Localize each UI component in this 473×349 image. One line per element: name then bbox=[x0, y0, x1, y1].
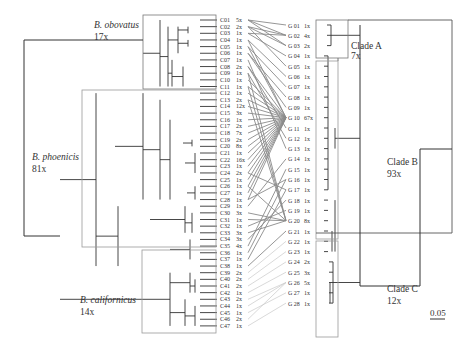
symbiont-taxon-count: 1x bbox=[304, 167, 310, 173]
clade-a-count: 7x bbox=[351, 51, 361, 61]
symbiont-taxon-id: G 14 bbox=[288, 156, 300, 162]
symbiont-taxon-id: G 12 bbox=[288, 136, 300, 142]
symbiont-taxon-count: 1x bbox=[304, 74, 310, 80]
symbiont-taxon-id: G 21 bbox=[288, 229, 300, 235]
symbiont-taxon-count: 67x bbox=[304, 115, 313, 121]
host-taxon-count: 1x bbox=[236, 323, 242, 329]
host-taxon-id: C02 bbox=[220, 24, 230, 30]
host-taxon-id: C37 bbox=[220, 256, 230, 262]
symbiont-taxon-count: 8x bbox=[304, 218, 310, 224]
clade-c-label: Clade C bbox=[387, 284, 418, 294]
host-taxon-count: 12x bbox=[236, 103, 245, 109]
symbiont-taxon-count: 1x bbox=[304, 239, 310, 245]
symbiont-taxon-count: 1x bbox=[304, 53, 310, 59]
host-taxon-count: 16x bbox=[236, 157, 245, 163]
host-taxon-id: C44 bbox=[220, 303, 230, 309]
host-taxon-id: C20 bbox=[220, 143, 230, 149]
symbiont-taxon-id: G 02 bbox=[288, 33, 300, 39]
host-taxon-id: C08 bbox=[220, 64, 230, 70]
host-taxon-count: 1x bbox=[236, 84, 242, 90]
host-taxon-id: C22 bbox=[220, 157, 230, 163]
californicus-box bbox=[142, 250, 216, 333]
symbiont-taxon-count: 1x bbox=[304, 95, 310, 101]
host-taxon-count: 1x bbox=[236, 197, 242, 203]
symbiont-taxon-count: 5x bbox=[304, 280, 310, 286]
host-taxon-id: C03 bbox=[220, 30, 230, 36]
symbiont-taxon-count: 1x bbox=[304, 301, 310, 307]
association-line bbox=[248, 283, 286, 320]
symbiont-taxon-id: G 18 bbox=[288, 198, 300, 204]
clade-b-label: Clade B bbox=[387, 157, 418, 167]
symbiont-taxon-id: G 03 bbox=[288, 43, 300, 49]
host-taxon-count: 1x bbox=[236, 77, 242, 83]
host-taxon-id: C09 bbox=[220, 70, 230, 76]
host-taxon-id: C31 bbox=[220, 217, 230, 223]
symbiont-taxa-labels: G 011xG 024xG 032xG 041xG 051xG 061xG 07… bbox=[288, 23, 313, 307]
tanglegram: C015xC022xC031xC041xC051xC061xC071xC082x… bbox=[0, 0, 473, 349]
host-taxon-count: 1x bbox=[236, 256, 242, 262]
clade-a-label: Clade A bbox=[351, 41, 382, 51]
symbiont-taxon-id: G 17 bbox=[288, 187, 300, 193]
symbiont-taxon-id: G 16 bbox=[288, 177, 300, 183]
symbiont-taxon-id: G 06 bbox=[288, 74, 300, 80]
host-taxon-count: 1x bbox=[236, 37, 242, 43]
host-taxon-id: C28 bbox=[220, 197, 230, 203]
host-taxon-count: 1x bbox=[236, 290, 242, 296]
scale-bar-label: 0.05 bbox=[430, 308, 446, 318]
host-taxon-id: C38 bbox=[220, 263, 230, 269]
symbiont-taxon-count: 1x bbox=[304, 84, 310, 90]
host-taxon-id: C13 bbox=[220, 97, 230, 103]
host-root-branch bbox=[24, 40, 60, 236]
clade-c-count: 12x bbox=[387, 296, 402, 306]
symbiont-taxon-id: G 01 bbox=[288, 23, 300, 29]
host-taxon-count: 1x bbox=[236, 303, 242, 309]
symbiont-taxon-count: 2x bbox=[304, 259, 310, 265]
host-taxon-id: C15 bbox=[220, 110, 230, 116]
host-taxon-id: C32 bbox=[220, 223, 230, 229]
symbiont-taxon-id: G 27 bbox=[288, 290, 300, 296]
host-taxon-count: 1x bbox=[236, 310, 242, 316]
symbiont-taxon-count: 1x bbox=[304, 208, 310, 214]
association-line bbox=[248, 283, 286, 300]
symbiont-taxon-id: G 26 bbox=[288, 280, 300, 286]
association-line bbox=[248, 241, 286, 272]
host-taxon-id: C30 bbox=[220, 210, 230, 216]
host-taxon-count: 2x bbox=[236, 97, 242, 103]
host-taxon-count: 3x bbox=[236, 110, 242, 116]
host-taxon-id: C27 bbox=[220, 190, 230, 196]
host-taxon-id: C47 bbox=[220, 323, 230, 329]
association-line bbox=[248, 303, 286, 326]
obovatus-box bbox=[143, 15, 216, 89]
host-taxon-count: 3x bbox=[236, 230, 242, 236]
host-taxon-id: C33 bbox=[220, 230, 230, 236]
symbiont-taxon-count: 1x bbox=[304, 126, 310, 132]
symbiont-taxon-id: G 15 bbox=[288, 167, 300, 173]
host-taxon-count: 2x bbox=[236, 276, 242, 282]
phylogeny-figure: C015xC022xC031xC041xC051xC061xC071xC082x… bbox=[0, 0, 473, 349]
symbiont-taxon-count: 1x bbox=[304, 64, 310, 70]
host-taxon-id: C21 bbox=[220, 150, 230, 156]
symbiont-taxon-id: G 11 bbox=[288, 126, 300, 132]
host-taxon-count: 2x bbox=[236, 64, 242, 70]
host-taxon-id: C24 bbox=[220, 170, 230, 176]
symbiont-taxon-count: 1x bbox=[304, 136, 310, 142]
host-taxon-count: 1x bbox=[236, 250, 242, 256]
host-taxon-id: C39 bbox=[220, 270, 230, 276]
symbiont-taxon-count: 1x bbox=[304, 249, 310, 255]
host-taxon-id: C05 bbox=[220, 44, 230, 50]
host-taxon-count: 2x bbox=[236, 24, 242, 30]
host-taxon-id: C18 bbox=[220, 130, 230, 136]
symbiont-taxon-id: G 20 bbox=[288, 218, 300, 224]
host-taxon-id: C16 bbox=[220, 117, 230, 123]
host-taxon-count: 1x bbox=[236, 150, 242, 156]
host-taxon-id: C35 bbox=[220, 243, 230, 249]
host-taxon-id: C46 bbox=[220, 316, 230, 322]
host-taxon-count: 1x bbox=[236, 44, 242, 50]
host-taxon-id: C17 bbox=[220, 123, 230, 129]
host-taxon-count: 1x bbox=[236, 203, 242, 209]
symbiont-taxon-count: 2x bbox=[304, 43, 310, 49]
host-taxon-count: 7x bbox=[236, 130, 242, 136]
symbiont-taxon-count: 1x bbox=[304, 290, 310, 296]
host-taxon-count: 1x bbox=[236, 50, 242, 56]
host-taxon-id: C43 bbox=[220, 296, 230, 302]
